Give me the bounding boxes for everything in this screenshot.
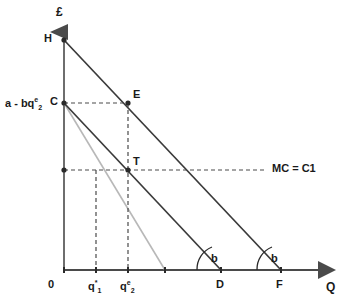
demand-curve-low — [64, 103, 221, 270]
point-label-d: D — [216, 279, 224, 290]
x-tick-label-q-e-2: qe2 — [120, 279, 135, 294]
point-dot-c — [61, 100, 66, 105]
q-e-2-sup: e — [127, 279, 131, 286]
intercept-expression-sup: e — [34, 96, 38, 103]
angle-label-b-at-f: b — [271, 253, 278, 264]
point-label-h: H — [44, 33, 52, 44]
intercept-expression-label: a - bqe2 — [5, 96, 42, 111]
economics-diagram-canvas: £ Q 0 H C E T D F MC = C1 a - bqe2 q*1 q… — [0, 0, 343, 306]
intercept-expression-base: a - bq — [5, 97, 34, 109]
origin-label: 0 — [48, 279, 54, 290]
intercept-expression-sub: 2 — [38, 104, 42, 111]
angle-label-b-at-d: b — [211, 253, 218, 264]
diagram-svg — [0, 0, 343, 306]
point-label-e: E — [133, 89, 140, 100]
y-axis-label: £ — [56, 6, 63, 18]
point-label-t: T — [133, 156, 140, 167]
x-axis-label: Q — [326, 281, 335, 293]
point-dot-mc-axis — [61, 167, 66, 172]
marginal-revenue-line — [64, 103, 165, 270]
point-label-f: F — [276, 279, 283, 290]
q-star-1-sub: 1 — [97, 287, 101, 294]
q-star-1-base: q — [88, 280, 95, 292]
point-dot-t — [125, 167, 130, 172]
x-tick-label-q-star-1: q*1 — [88, 279, 101, 294]
point-dot-e — [125, 100, 130, 105]
q-e-2-sub: 2 — [131, 287, 135, 294]
mc-line-label: MC = C1 — [272, 163, 316, 174]
q-e-2-base: q — [120, 280, 127, 292]
point-label-c: C — [50, 96, 58, 107]
point-dot-h — [61, 37, 66, 42]
q-star-1-sup: * — [95, 279, 98, 286]
